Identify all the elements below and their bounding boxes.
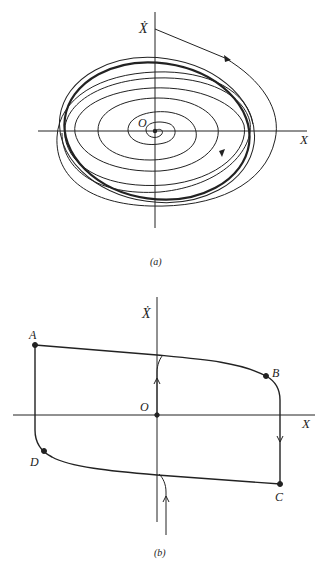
b-y-axis-label: Ẋ	[141, 306, 151, 321]
point-d	[42, 449, 47, 454]
label-b: B	[272, 366, 280, 380]
b-origin-label: O	[140, 400, 149, 414]
a-x-axis-label: X	[299, 132, 309, 147]
figure-a	[38, 12, 307, 228]
b-x-axis-label: X	[301, 416, 311, 431]
point-c	[278, 482, 283, 487]
b-bottom-trajectory	[159, 474, 166, 535]
figure-canvas: Ẋ X O (a) Ẋ X O A B C D (b)	[0, 0, 326, 566]
a-origin-label: O	[138, 116, 147, 130]
point-b	[264, 374, 269, 379]
b-inner-trajectory	[157, 355, 163, 415]
b-caption: (b)	[154, 547, 166, 559]
label-d: D	[29, 455, 39, 469]
a-arrow-inner	[219, 149, 225, 157]
label-c: C	[275, 490, 284, 504]
a-caption: (a)	[150, 256, 162, 268]
b-origin-dot	[155, 413, 159, 417]
point-a	[33, 343, 38, 348]
a-origin-dot	[153, 129, 157, 133]
label-a: A	[28, 328, 37, 342]
figure-b	[13, 297, 315, 535]
a-y-axis-label: Ẋ	[138, 21, 148, 36]
